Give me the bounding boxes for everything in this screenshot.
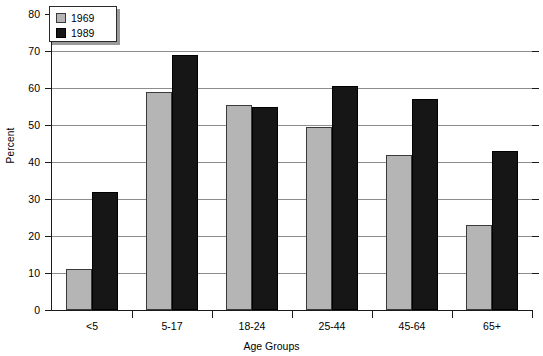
x-tick xyxy=(212,311,213,318)
y-tick-label: 60 xyxy=(0,83,40,93)
gridline xyxy=(52,51,532,52)
y-tick xyxy=(45,236,52,237)
y-tick-label: 70 xyxy=(0,46,40,56)
x-tick xyxy=(372,311,373,318)
y-tick-right xyxy=(532,273,539,274)
bar-1989-25-44 xyxy=(332,86,358,310)
gridline xyxy=(52,125,532,126)
y-tick-label: 20 xyxy=(0,231,40,241)
bar-1969-5-17 xyxy=(146,92,172,310)
x-tick-label: 45-64 xyxy=(367,320,457,332)
bar-1989-<5 xyxy=(92,192,118,310)
y-tick-right xyxy=(532,51,539,52)
x-tick-label: 5-17 xyxy=(127,320,217,332)
y-tick-label: 30 xyxy=(0,194,40,204)
y-tick-label: 50 xyxy=(0,120,40,130)
y-tick-right xyxy=(532,125,539,126)
gridline xyxy=(52,273,532,274)
bar-1969-<5 xyxy=(66,269,92,310)
x-tick xyxy=(452,311,453,318)
bar-1989-45-64 xyxy=(412,99,438,310)
y-tick-right xyxy=(532,88,539,89)
y-tick xyxy=(45,162,52,163)
x-tick-label: <5 xyxy=(47,320,137,332)
y-tick-right xyxy=(532,199,539,200)
legend-swatch-icon-1969 xyxy=(56,13,66,23)
legend-label-1989: 1989 xyxy=(71,28,94,39)
x-tick xyxy=(532,311,533,318)
gridline xyxy=(52,236,532,237)
gridline xyxy=(52,199,532,200)
y-tick xyxy=(45,273,52,274)
bar-1989-18-24 xyxy=(252,107,278,311)
y-tick-label: 40 xyxy=(0,157,40,167)
x-tick xyxy=(292,311,293,318)
legend-swatch-icon-1989 xyxy=(56,28,66,38)
bar-1969-25-44 xyxy=(306,127,332,310)
legend-item-1969: 1969 xyxy=(54,11,112,25)
y-tick-right xyxy=(532,236,539,237)
bar-1969-45-64 xyxy=(386,155,412,310)
legend-item-1989: 1989 xyxy=(54,26,112,40)
x-tick-label: 18-24 xyxy=(207,320,297,332)
y-tick xyxy=(45,125,52,126)
y-tick-label: 0 xyxy=(0,305,40,315)
x-axis-title: Age Groups xyxy=(0,340,543,352)
gridline xyxy=(52,162,532,163)
gridline xyxy=(52,88,532,89)
y-tick-label: 80 xyxy=(0,9,40,19)
y-tick-label: 10 xyxy=(0,268,40,278)
bar-1989-5-17 xyxy=(172,55,198,310)
bar-1989-65+ xyxy=(492,151,518,310)
y-tick xyxy=(45,51,52,52)
y-tick xyxy=(45,88,52,89)
bar-1969-65+ xyxy=(466,225,492,310)
legend: 1969 1989 xyxy=(49,6,117,42)
y-tick xyxy=(45,199,52,200)
bar-chart: Percent 01020304050607080 <55-1718-2425-… xyxy=(0,0,543,356)
legend-label-1969: 1969 xyxy=(71,13,94,24)
x-tick xyxy=(132,311,133,318)
x-tick-label: 25-44 xyxy=(287,320,377,332)
bar-1969-18-24 xyxy=(226,105,252,310)
plot-area xyxy=(52,14,532,310)
x-tick-label: 65+ xyxy=(447,320,537,332)
y-tick-right xyxy=(532,162,539,163)
